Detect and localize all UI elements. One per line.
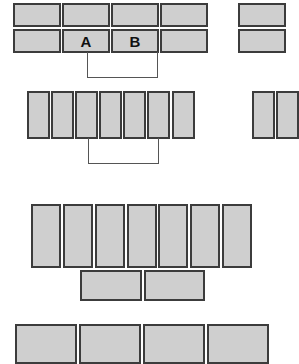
diagram-box xyxy=(160,29,208,53)
diagram-box xyxy=(222,204,252,268)
diagram-box xyxy=(172,91,195,139)
diagram-box xyxy=(190,204,220,268)
diagram-box xyxy=(95,204,125,268)
diagram-box xyxy=(160,3,208,27)
diagram-box xyxy=(144,270,205,301)
diagram-box xyxy=(27,91,50,139)
diagram-box xyxy=(80,270,142,301)
box-b: B xyxy=(111,29,159,53)
diagram-box xyxy=(238,3,286,27)
diagram-box xyxy=(276,91,299,139)
diagram-box xyxy=(13,3,61,27)
diagram-box xyxy=(252,91,275,139)
diagram-box xyxy=(111,3,159,27)
diagram-box xyxy=(15,324,77,364)
diagram-box xyxy=(99,91,122,139)
diagram-box xyxy=(147,91,170,139)
diagram-box xyxy=(31,204,61,268)
box-a: A xyxy=(62,29,110,53)
bracket-connector xyxy=(88,138,159,164)
diagram-box xyxy=(75,91,98,139)
diagram-box xyxy=(123,91,146,139)
diagram-box xyxy=(238,29,286,53)
diagram-box xyxy=(51,91,74,139)
diagram-box xyxy=(143,324,205,364)
diagram-box xyxy=(158,204,188,268)
diagram-box xyxy=(207,324,269,364)
diagram-box xyxy=(13,29,61,53)
bracket-connector xyxy=(87,52,158,78)
diagram-box xyxy=(62,3,110,27)
diagram-box xyxy=(127,204,157,268)
diagram-box xyxy=(63,204,93,268)
diagram-box xyxy=(79,324,141,364)
